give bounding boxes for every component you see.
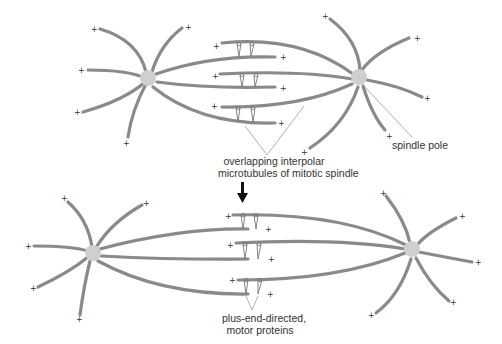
right-spindle-pole [351,69,367,85]
svg-text:+: + [280,53,287,62]
svg-text:+: + [123,139,130,148]
spindle-pole-label: spindle pole [392,139,448,151]
svg-text:+: + [265,225,272,234]
svg-text:+: + [225,212,232,221]
left-spindle-pole [140,70,156,86]
svg-text:+: + [227,241,234,250]
svg-text:+: + [268,255,275,264]
motor-proteins-bottom [241,213,262,294]
down-arrow-icon [237,182,248,203]
svg-text:+: + [450,298,457,307]
svg-text:+: + [211,102,218,111]
motor-proteins-top [236,42,258,122]
svg-text:+: + [368,311,375,320]
svg-text:+: + [212,72,219,81]
motor-leader [246,296,258,310]
svg-text:+: + [280,84,287,93]
svg-text:+: + [61,194,68,203]
svg-text:+: + [424,94,431,103]
pole-leader [363,85,412,137]
bottom-spindle: + + + + + + + + + + + + + + + + [25,189,482,324]
svg-text:+: + [278,119,285,128]
svg-text:+: + [459,212,466,221]
motor-proteins-label: plus-end-directed, motor proteins [222,312,298,336]
svg-text:+: + [143,199,150,208]
svg-text:+: + [380,189,387,198]
left-spindle-pole-bottom [85,245,101,261]
svg-text:+: + [74,108,81,117]
top-spindle: + + + + + + + + + + + + + + + + [74,12,431,157]
svg-text:+: + [91,25,98,34]
svg-text:+: + [78,66,85,75]
svg-text:+: + [76,315,83,324]
svg-text:+: + [30,284,37,293]
svg-text:+: + [25,242,32,251]
overlap-label: overlapping interpolar microtubules of m… [218,155,330,179]
right-spindle-pole-bottom [404,241,420,257]
svg-text:+: + [267,290,274,299]
svg-text:+: + [414,34,421,43]
svg-text:+: + [475,258,482,267]
svg-text:+: + [229,276,236,285]
svg-text:+: + [322,12,329,21]
svg-text:+: + [185,23,192,32]
svg-text:+: + [213,42,220,51]
